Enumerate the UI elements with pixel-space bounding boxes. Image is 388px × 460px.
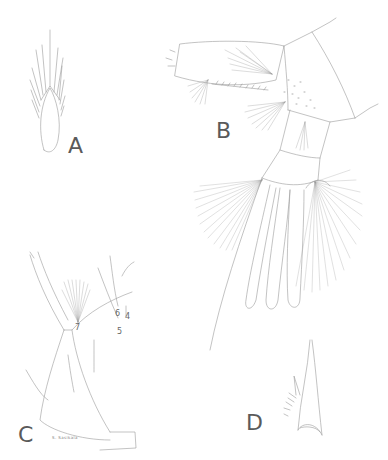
figure-plate: A B C D 7 6 5 4 S. Sasikala xyxy=(0,0,388,460)
panel-d-drawing xyxy=(284,340,322,435)
seta-label-4: 4 xyxy=(125,313,130,321)
illustration-drawing xyxy=(0,0,388,460)
artist-signature: S. Sasikala xyxy=(52,436,78,440)
seta-label-7: 7 xyxy=(75,324,80,332)
seta-label-5: 5 xyxy=(117,328,122,336)
panel-label-b: B xyxy=(216,120,231,142)
panel-label-d: D xyxy=(246,412,263,434)
seta-label-6: 6 xyxy=(115,310,120,318)
panel-label-c: C xyxy=(18,424,33,446)
panel-label-a: A xyxy=(68,135,83,157)
panel-b-drawing xyxy=(166,18,378,350)
panel-c-drawing xyxy=(26,252,136,450)
panel-a-drawing xyxy=(30,30,65,152)
